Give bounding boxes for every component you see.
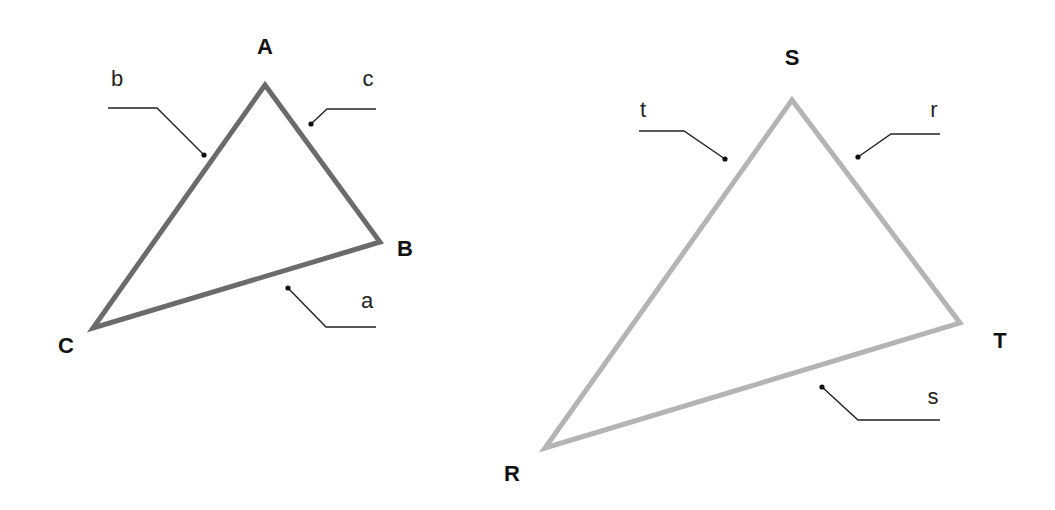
side-label-b: b [108,66,207,158]
side-label-t: t [639,97,728,162]
leader-dot-t [722,156,727,161]
leader-dot-b [201,152,206,157]
triangle-abc-outline [93,85,380,328]
side-label-t-text: t [640,97,646,122]
leader-line-b [108,108,204,155]
triangle-rst: t r s S T R [504,45,1007,486]
leader-line-s [822,387,940,420]
diagram-canvas: b c a A B C t r s [0,0,1055,510]
vertex-label-b: B [397,236,413,261]
leader-dot-s [819,384,824,389]
triangle-abc: b c a A B C [58,34,413,358]
vertex-label-t: T [993,328,1007,353]
triangle-rst-outline [545,100,960,448]
side-label-r-text: r [930,97,937,122]
vertex-label-s: S [785,45,800,70]
vertex-label-r: R [504,461,520,486]
vertex-label-c: C [58,333,74,358]
leader-dot-r [855,154,860,159]
side-label-c: c [308,66,376,127]
leader-dot-c [308,121,313,126]
leader-line-r [858,134,940,157]
side-label-c-text: c [363,66,374,91]
side-label-a: a [285,285,376,327]
vertex-label-a: A [257,34,273,59]
side-label-s: s [819,384,940,420]
leader-line-t [639,131,725,159]
leader-dot-a [285,285,290,290]
side-label-s-text: s [928,384,939,409]
side-label-r: r [855,97,940,160]
side-label-a-text: a [361,288,374,313]
side-label-b-text: b [111,66,123,91]
leader-line-c [311,109,376,124]
